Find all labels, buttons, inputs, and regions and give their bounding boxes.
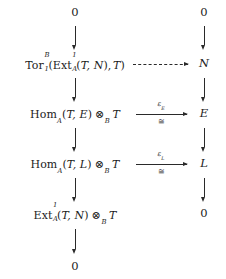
module-n: N xyxy=(199,56,209,70)
vertical-arrow-right-3 xyxy=(200,128,208,151)
ext-close-paren: ) xyxy=(84,209,88,222)
zero-bottom-right: 0 xyxy=(200,206,207,220)
node-right-row4-l: L xyxy=(200,158,208,170)
arrow-head xyxy=(72,147,76,152)
arrow-shaft xyxy=(75,26,76,45)
ext-inner-args: T, N xyxy=(81,59,104,72)
node-right-row1-zero: 0 xyxy=(200,7,207,19)
vertical-arrow-left-4 xyxy=(71,178,79,201)
arrow-head xyxy=(201,197,205,202)
arrow-shaft xyxy=(75,229,76,249)
vertical-arrow-right-1 xyxy=(200,26,208,49)
arrow-head xyxy=(72,249,76,254)
tensor-module-l: T xyxy=(112,158,119,171)
arrow-head xyxy=(72,45,76,50)
iso-arrow-l xyxy=(136,164,187,165)
node-right-row3-e: E xyxy=(200,108,209,120)
congruence-symbol-e: ≅ xyxy=(158,117,165,126)
module-e: E xyxy=(200,106,209,120)
vertical-arrow-left-3 xyxy=(71,128,79,151)
vertical-arrow-left-5 xyxy=(71,229,79,253)
tensor-subscript-ext: B xyxy=(101,218,106,226)
arrow-head xyxy=(72,97,76,102)
arrow-shaft xyxy=(133,64,188,65)
hom-l-args: T, L xyxy=(67,158,87,171)
tensor-symbol-l: ⊗ xyxy=(94,158,104,171)
vertical-arrow-right-4 xyxy=(200,178,208,201)
iso-arrow-l-label-above: εL xyxy=(158,151,165,158)
ext-functor-name: Ext xyxy=(34,209,53,222)
hom-l-functor-name: Hom xyxy=(30,158,57,171)
zero-top-right: 0 xyxy=(200,5,207,19)
iso-arrow-l-label-below: ≅ xyxy=(158,168,165,176)
tensor-symbol-ext: ⊗ xyxy=(91,209,101,222)
tensor-subscript-e: B xyxy=(105,117,110,125)
arrow-shaft xyxy=(204,128,205,147)
node-left-row3-hom-e: HomA(T, E)⊗BT xyxy=(30,109,120,120)
node-left-row1-zero: 0 xyxy=(71,7,78,19)
node-right-row2-n: N xyxy=(199,58,209,70)
tensor-module-e: T xyxy=(112,108,119,121)
iso-arrow-e-label-above: εE xyxy=(157,101,164,108)
arrow-shaft xyxy=(75,78,76,97)
node-right-row5-zero: 0 xyxy=(200,208,207,220)
epsilon-subscript-l: L xyxy=(161,156,164,161)
iso-arrow-e xyxy=(136,114,187,115)
zero-bottom-left: 0 xyxy=(71,259,78,273)
hom-e-subscript: A xyxy=(57,117,62,125)
node-left-row6-zero: 0 xyxy=(71,261,78,273)
hom-e-args: T, E xyxy=(66,108,87,121)
ext-functor-name-inner: Ext xyxy=(53,59,72,72)
arrow-shaft xyxy=(75,178,76,197)
epsilon-subscript-e: E xyxy=(161,106,164,111)
tensor-subscript-l: B xyxy=(105,167,110,175)
hom-e-close-paren: ) xyxy=(88,108,92,121)
iso-arrow-e-label-below: ≅ xyxy=(158,118,165,126)
arrow-head xyxy=(183,162,188,166)
arrow-shaft xyxy=(204,78,205,97)
ext-args: T, N xyxy=(61,209,84,222)
tensor-symbol-e: ⊗ xyxy=(95,108,105,121)
tor-close-paren: ) xyxy=(120,59,124,72)
arrow-shaft xyxy=(204,178,205,197)
module-l: L xyxy=(200,156,208,170)
arrow-shaft xyxy=(75,128,76,147)
arrow-head xyxy=(184,62,189,66)
zero-top-left: 0 xyxy=(71,5,78,19)
arrow-head xyxy=(201,147,205,152)
node-left-row2-tor: TorB1(Ext1A(T, N),T) xyxy=(25,58,125,71)
hom-l-close-paren: ) xyxy=(87,158,91,171)
commutative-diagram: 0 TorB1(Ext1A(T, N),T) HomA(T, E)⊗BT Hom… xyxy=(0,0,226,279)
tor-outer-arg: T xyxy=(111,59,120,72)
arrow-shaft xyxy=(204,26,205,45)
arrow-shaft xyxy=(136,164,187,165)
node-left-row5-ext: Ext1A(T, N)⊗BT xyxy=(34,208,117,221)
tensor-module-ext: T xyxy=(109,209,116,222)
dashed-arrow-tor-to-n xyxy=(133,64,188,65)
congruence-symbol-l: ≅ xyxy=(158,167,165,176)
vertical-arrow-left-2 xyxy=(71,78,79,101)
hom-e-functor-name: Hom xyxy=(30,108,57,121)
arrow-shaft xyxy=(136,114,187,115)
tor-functor-name: Tor xyxy=(25,59,44,72)
vertical-arrow-right-2 xyxy=(200,78,208,101)
arrow-head xyxy=(201,97,205,102)
hom-l-subscript: A xyxy=(57,167,62,175)
arrow-head xyxy=(201,45,205,50)
vertical-arrow-left-1 xyxy=(71,26,79,49)
arrow-head xyxy=(72,197,76,202)
node-left-row4-hom-l: HomA(T, L)⊗BT xyxy=(30,159,119,170)
arrow-head xyxy=(183,112,188,116)
